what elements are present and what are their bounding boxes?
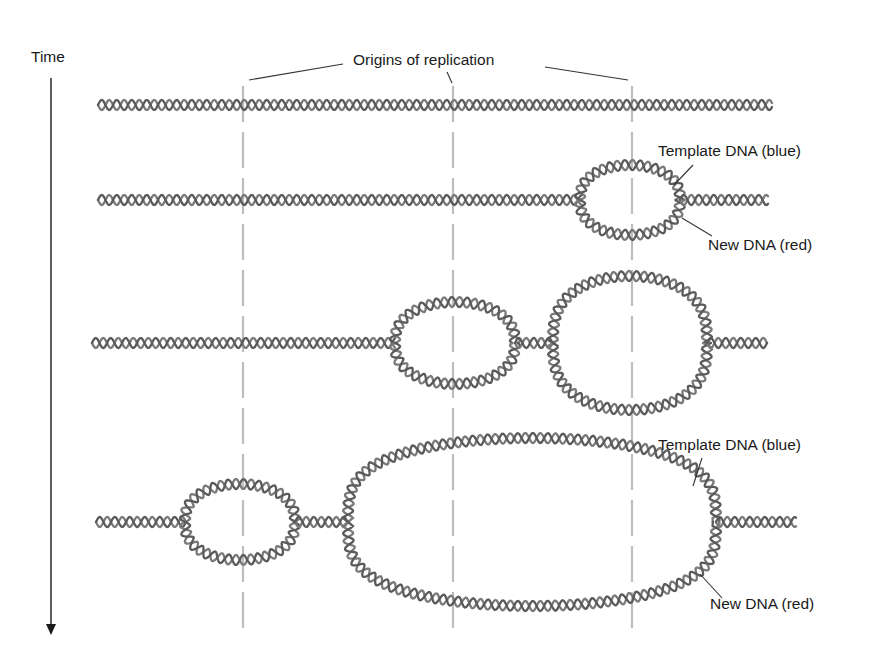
stage-4-bubble1-top-strand-template bbox=[181, 479, 300, 522]
stage-3-bubble1-bottom bbox=[390, 343, 520, 389]
replication-diagram bbox=[0, 0, 883, 650]
stage-3-bubble2-top bbox=[548, 271, 712, 343]
stage-3-bubble2-bottom bbox=[548, 343, 712, 415]
origin-lines bbox=[243, 86, 632, 636]
time-arrowhead-icon bbox=[46, 624, 56, 635]
stage-3-bubble2-bottom-strand-template bbox=[548, 343, 712, 415]
stage-2-dna-left bbox=[98, 195, 582, 205]
stage-3-dna-right bbox=[707, 338, 767, 348]
stage-4-dna-middle-strand-new bbox=[295, 517, 348, 527]
template-dna-label-stage-4: Template DNA (blue) bbox=[658, 436, 801, 454]
stage-2-dna-right bbox=[680, 195, 768, 205]
new-dna-label-stage-2: New DNA (red) bbox=[708, 236, 812, 254]
stage-4-dna-left bbox=[96, 517, 185, 527]
template-dna-label-stage-2: Template DNA (blue) bbox=[658, 142, 801, 160]
stage-4-bubble1-bottom bbox=[180, 522, 300, 565]
stage-3-bubble1-top bbox=[390, 297, 520, 343]
stage-4-bubble2-bottom bbox=[343, 522, 721, 611]
time-label: Time bbox=[31, 48, 65, 66]
stage-4-dna-right bbox=[716, 517, 796, 527]
stage-2-bubble-top bbox=[575, 160, 685, 200]
stage-2-bubble-bottom-strand-template bbox=[575, 200, 684, 240]
stage-4-dna-middle bbox=[295, 517, 348, 527]
stage-4-bubble2-bottom-strand-template bbox=[343, 522, 721, 611]
stage-4-bubble2-bottom-strand-new bbox=[343, 522, 721, 611]
stage-2-bubble-top-strand-new bbox=[575, 160, 684, 200]
stage-1-dna bbox=[98, 100, 772, 110]
origins-of-replication-label: Origins of replication bbox=[353, 51, 494, 69]
new-dna-label-stage-4: New DNA (red) bbox=[710, 595, 814, 613]
stage-3-bubble2-top-strand-new bbox=[548, 271, 712, 343]
stage-2-bubble-bottom bbox=[575, 200, 685, 240]
stage-4-bubble1-top bbox=[180, 479, 300, 522]
stage-4-bubble1-bottom-strand-new bbox=[181, 522, 300, 565]
